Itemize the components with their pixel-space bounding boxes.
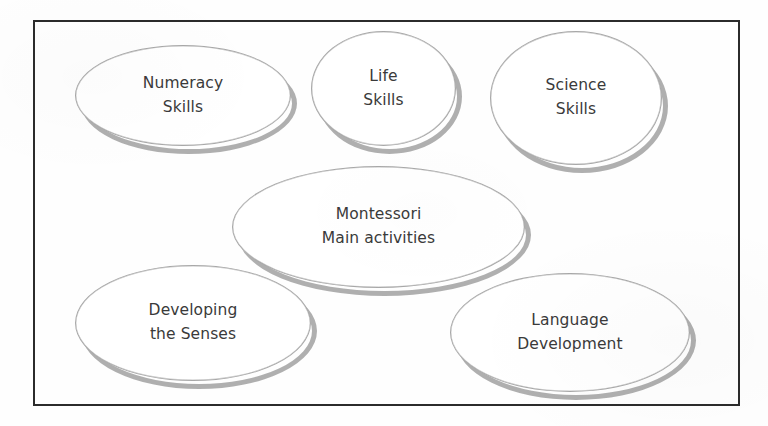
node-ellipse[interactable]: Language Development bbox=[450, 273, 690, 392]
node-life-skills[interactable]: Life Skills bbox=[311, 31, 456, 146]
node-label-line2: Skills bbox=[163, 96, 203, 120]
node-label-line2: the Senses bbox=[150, 323, 236, 347]
node-montessori-main-activities[interactable]: Montessori Main activities bbox=[232, 166, 525, 288]
node-label-line2: Development bbox=[517, 333, 622, 357]
diagram-canvas: Numeracy Skills Life Skills Science Skil… bbox=[0, 0, 768, 426]
node-label-line1: Numeracy bbox=[143, 72, 223, 96]
node-label-line1: Science bbox=[546, 74, 607, 98]
node-label-line2: Skills bbox=[556, 98, 596, 122]
node-label-line1: Developing bbox=[149, 299, 238, 323]
node-label-line2: Skills bbox=[363, 89, 403, 113]
node-numeracy-skills[interactable]: Numeracy Skills bbox=[75, 45, 291, 146]
node-label-line1: Life bbox=[369, 65, 397, 89]
node-label-line2: Main activities bbox=[322, 227, 435, 251]
node-ellipse[interactable]: Montessori Main activities bbox=[232, 166, 525, 288]
node-ellipse[interactable]: Numeracy Skills bbox=[75, 45, 291, 146]
node-science-skills[interactable]: Science Skills bbox=[490, 31, 662, 165]
node-language-development[interactable]: Language Development bbox=[450, 273, 690, 392]
node-label-line1: Montessori bbox=[336, 203, 422, 227]
node-ellipse[interactable]: Science Skills bbox=[490, 31, 662, 165]
node-ellipse[interactable]: Life Skills bbox=[311, 31, 456, 146]
node-label-line1: Language bbox=[531, 309, 608, 333]
